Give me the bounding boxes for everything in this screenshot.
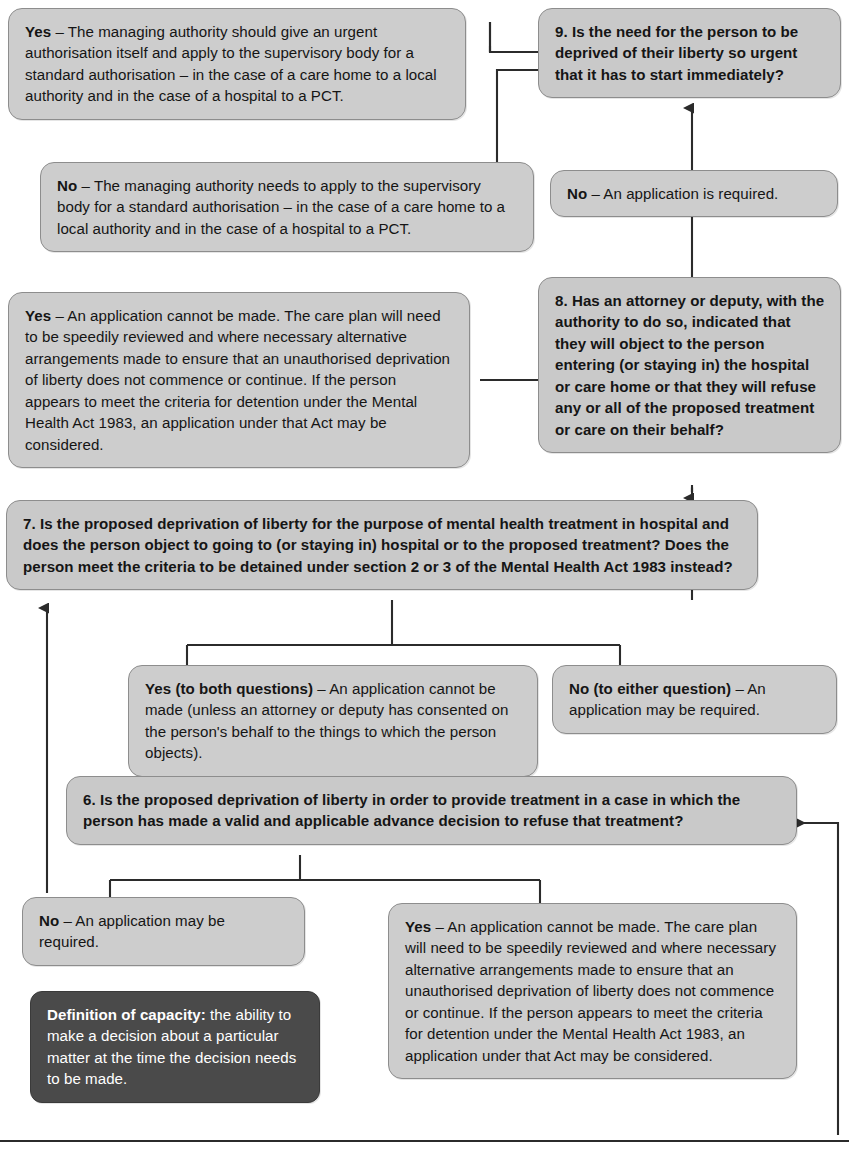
- node-question-7-text: 7. Is the proposed deprivation of libert…: [23, 515, 733, 575]
- node-q9-yes-text: – The managing authority should give an …: [25, 23, 437, 104]
- flowchart-page: Yes – The managing authority should give…: [0, 0, 849, 1153]
- edge-q9-to-yes: [490, 22, 538, 52]
- node-question-6-text: 6. Is the proposed deprivation of libert…: [83, 791, 740, 829]
- node-q8-yes-lead: Yes: [25, 307, 51, 324]
- node-q9-no[interactable]: No – The managing authority needs to app…: [40, 162, 534, 252]
- node-q7-no[interactable]: No (to either question) – An application…: [552, 665, 837, 734]
- footer-divider: [0, 1140, 849, 1142]
- node-q9-no-lead: No: [57, 177, 77, 194]
- node-question-8[interactable]: 8. Has an attorney or deputy, with the a…: [538, 277, 841, 453]
- node-q8-yes[interactable]: Yes – An application cannot be made. The…: [8, 292, 470, 468]
- node-q8-yes-text: – An application cannot be made. The car…: [25, 307, 450, 453]
- node-capacity-definition-lead: Definition of capacity:: [47, 1006, 206, 1023]
- node-q9-yes[interactable]: Yes – The managing authority should give…: [8, 8, 466, 120]
- node-q7-no-lead: No (to either question): [569, 680, 731, 697]
- node-capacity-definition: Definition of capacity: the ability to m…: [30, 991, 320, 1103]
- node-question-9[interactable]: 9. Is the need for the person to be depr…: [538, 8, 841, 98]
- node-q6-no-text: – An application may be required.: [39, 912, 225, 950]
- node-q8-no[interactable]: No – An application is required.: [550, 170, 838, 217]
- node-q6-yes-text: – An application cannot be made. The car…: [405, 918, 776, 1064]
- node-q6-yes[interactable]: Yes – An application cannot be made. The…: [388, 903, 797, 1079]
- node-question-6[interactable]: 6. Is the proposed deprivation of libert…: [66, 776, 797, 845]
- node-question-9-text: 9. Is the need for the person to be depr…: [555, 23, 798, 83]
- node-question-8-text: 8. Has an attorney or deputy, with the a…: [555, 292, 824, 438]
- node-q8-no-lead: No: [567, 185, 587, 202]
- node-q6-no-lead: No: [39, 912, 59, 929]
- node-q8-no-text: – An application is required.: [587, 185, 778, 202]
- node-q9-no-text: – The managing authority needs to apply …: [57, 177, 505, 237]
- node-q9-yes-lead: Yes: [25, 23, 51, 40]
- node-q7-yes-lead: Yes (to both questions): [145, 680, 313, 697]
- node-question-7[interactable]: 7. Is the proposed deprivation of libert…: [6, 500, 758, 590]
- node-q6-yes-lead: Yes: [405, 918, 431, 935]
- node-q6-no[interactable]: No – An application may be required.: [22, 897, 305, 966]
- node-q7-yes[interactable]: Yes (to both questions) – An application…: [128, 665, 538, 777]
